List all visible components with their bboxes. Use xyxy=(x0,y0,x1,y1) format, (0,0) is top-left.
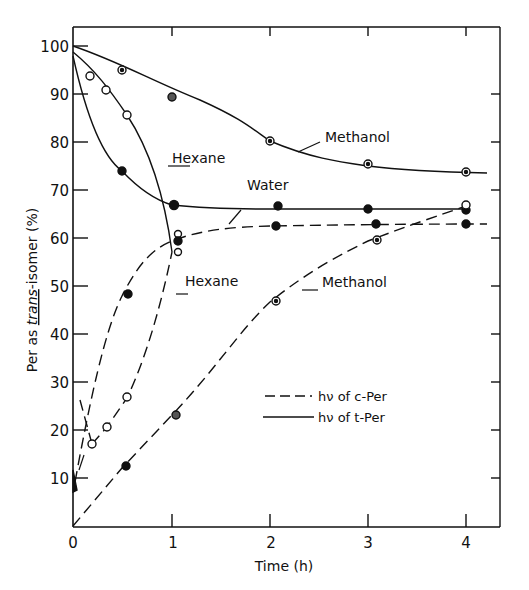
x-tick-label: 2 xyxy=(266,534,276,552)
legend-label-c-per: hν of c-Per xyxy=(318,389,388,404)
y-tick-label: 30 xyxy=(50,374,69,392)
y-axis-ticks xyxy=(73,46,500,478)
y-axis-title: Per as trans-isomer (%) xyxy=(24,208,40,373)
chart: 0 1 2 3 4 Time (h) 100 90 80 70 60 50 40… xyxy=(0,0,529,590)
y-tick-label: 20 xyxy=(50,422,69,440)
annotation-methanol-solid: Methanol xyxy=(325,129,390,145)
annotation-methanol-dashed: Methanol xyxy=(322,274,387,290)
annotation-water: Water xyxy=(247,177,289,193)
y-tick-label: 100 xyxy=(40,38,69,56)
x-axis-title: Time (h) xyxy=(254,558,314,574)
annotation-hexane-solid: Hexane xyxy=(172,150,225,166)
y-tick-label: 50 xyxy=(50,278,69,296)
y-tick-label: 40 xyxy=(50,326,69,344)
legend-label-t-per: hν of t-Per xyxy=(318,410,385,425)
data-markers xyxy=(73,66,470,492)
x-tick-label: 0 xyxy=(68,534,78,552)
x-tick-label: 4 xyxy=(461,534,471,552)
y-tick-label: 90 xyxy=(50,86,69,104)
y-tick-label: 10 xyxy=(50,470,69,488)
methanol-dashed-curve xyxy=(73,206,466,526)
y-tick-label: 80 xyxy=(50,134,69,152)
annotation-hexane-dashed: Hexane xyxy=(185,273,238,289)
methanol-solid-curve xyxy=(73,46,487,173)
y-tick-label: 70 xyxy=(50,182,69,200)
plot-frame xyxy=(73,27,500,527)
x-tick-label: 1 xyxy=(168,534,178,552)
legend: hν of c-Per hν of t-Per xyxy=(263,389,388,425)
y-tick-label: 60 xyxy=(50,230,69,248)
water-dashed-curve xyxy=(75,224,487,482)
x-tick-label: 3 xyxy=(363,534,373,552)
